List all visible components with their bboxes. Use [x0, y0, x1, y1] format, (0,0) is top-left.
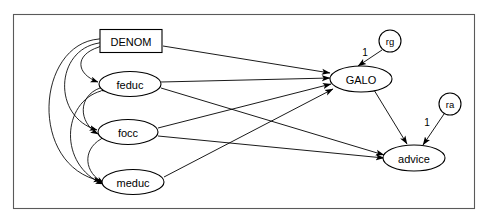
- edge-feduc-advice: [161, 88, 384, 155]
- node-focc[interactable]: focc: [98, 120, 158, 145]
- edge-label-rg-loading: 1: [362, 47, 368, 58]
- covariance-edges: [49, 39, 104, 184]
- node-feduc[interactable]: feduc: [99, 72, 161, 97]
- edge-focc-advice: [158, 136, 384, 158]
- edge-cov-feduc-meduc: [70, 91, 103, 184]
- edge-galo-advice: [374, 90, 407, 144]
- node-galo[interactable]: GALO: [330, 66, 392, 92]
- edge-cov-denom-feduc: [81, 47, 99, 82]
- node-feduc-label: feduc: [117, 79, 144, 91]
- node-meduc[interactable]: meduc: [102, 170, 164, 195]
- edge-cov-denom-focc: [65, 43, 99, 130]
- diagram-canvas: 1 1 DENOM feduc focc meduc GALO advice: [0, 0, 488, 223]
- node-advice[interactable]: advice: [383, 145, 445, 171]
- edge-cov-denom-meduc: [49, 39, 101, 181]
- node-galo-label: GALO: [346, 74, 377, 86]
- node-focc-label: focc: [118, 127, 139, 139]
- edge-feduc-galo: [161, 78, 330, 82]
- node-meduc-label: meduc: [116, 177, 150, 189]
- node-advice-label: advice: [398, 153, 430, 165]
- path-diagram: 1 1 DENOM feduc focc meduc GALO advice: [0, 0, 488, 223]
- edge-label-ra-loading: 1: [424, 117, 430, 128]
- node-denom-label: DENOM: [111, 36, 152, 48]
- edge-meduc-galo: [164, 89, 333, 177]
- edge-denom-galo: [163, 46, 330, 73]
- node-rg-label: rg: [386, 36, 394, 47]
- node-ra-label: ra: [446, 99, 455, 110]
- node-ra[interactable]: ra: [439, 93, 461, 115]
- edge-focc-galo: [158, 84, 331, 128]
- node-rg[interactable]: rg: [379, 30, 401, 52]
- node-denom[interactable]: DENOM: [100, 30, 162, 53]
